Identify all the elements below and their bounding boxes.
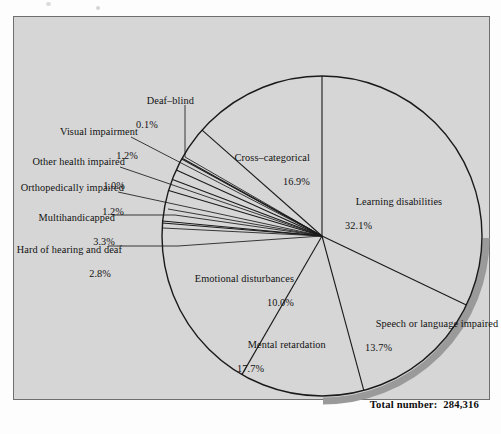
label-emotional-disturbances: Emotional disturbances 10.0% bbox=[175, 261, 294, 333]
total-number-label: Total number: 284,316 bbox=[370, 399, 479, 410]
label-cross-categorical-pct: 16.9% bbox=[200, 176, 310, 188]
label-orthopedically-impaired-name: Orthopedically impaired bbox=[21, 182, 124, 193]
label-other-health-impaired-name: Other health impaired bbox=[33, 156, 125, 167]
label-cross-categorical: Cross–categorical 16.9% bbox=[200, 140, 310, 212]
paper-speck-icon bbox=[46, 2, 51, 6]
label-speech-or-language-impaired-name: Speech or language impaired bbox=[376, 318, 499, 329]
label-hard-of-hearing-and-deaf: Hard of hearing and deaf 2.8% bbox=[6, 232, 111, 304]
label-hard-of-hearing-and-deaf-pct: 2.8% bbox=[6, 268, 111, 280]
label-mental-retardation: Mental retardation 17.7% bbox=[237, 327, 326, 399]
label-deaf-blind-pct: 0.1% bbox=[136, 119, 194, 131]
label-emotional-disturbances-name: Emotional disturbances bbox=[195, 273, 294, 284]
label-learning-disabilities-pct: 32.1% bbox=[345, 220, 442, 232]
label-emotional-disturbances-pct: 10.0% bbox=[175, 297, 294, 309]
label-mental-retardation-pct: 17.7% bbox=[237, 363, 326, 375]
paper-speck-icon bbox=[96, 6, 100, 10]
label-learning-disabilities: Learning disabilities 32.1% bbox=[345, 184, 442, 256]
label-learning-disabilities-name: Learning disabilities bbox=[356, 196, 442, 207]
label-deaf-blind-name: Deaf–blind bbox=[147, 95, 194, 106]
label-mental-retardation-name: Mental retardation bbox=[248, 339, 326, 350]
label-deaf-blind: Deaf–blind 0.1% bbox=[136, 83, 194, 155]
label-cross-categorical-name: Cross–categorical bbox=[235, 152, 310, 163]
label-multihandicapped-name: Multihandicapped bbox=[38, 212, 115, 223]
label-hard-of-hearing-and-deaf-name: Hard of hearing and deaf bbox=[17, 244, 122, 255]
label-speech-or-language-impaired: Speech or language impaired 13.7% bbox=[365, 306, 498, 378]
figure-canvas: Deaf–blind 0.1% Visual impairment 1.2% O… bbox=[0, 0, 501, 434]
label-visual-impairment-name: Visual impairment bbox=[60, 126, 138, 137]
label-speech-or-language-impaired-pct: 13.7% bbox=[365, 342, 498, 354]
